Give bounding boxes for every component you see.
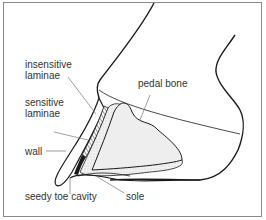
label-sole: sole (126, 191, 144, 202)
label-insensitive-laminae-line1: insensitive (25, 59, 72, 70)
sole-outline (70, 175, 200, 181)
label-insensitive-laminae-line2: laminae (25, 70, 60, 81)
label-wall: wall (25, 146, 42, 157)
label-seedy-toe-cavity: seedy toe cavity (25, 191, 97, 202)
label-sensitive-laminae-line2: laminae (25, 108, 60, 119)
label-pedal-bone: pedal bone (138, 78, 188, 89)
label-sensitive-laminae-line1: sensitive (25, 97, 64, 108)
